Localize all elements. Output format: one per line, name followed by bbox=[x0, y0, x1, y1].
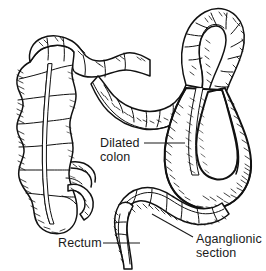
rectum-label-line1: Rectum bbox=[58, 236, 102, 250]
colon-diagram-svg: Dilated colon Rectum Aganglionic section bbox=[0, 0, 266, 271]
aganglionic-label-line1: Aganglionic bbox=[196, 232, 262, 246]
dilated-colon-label-line1: Dilated bbox=[100, 136, 140, 150]
colon-illustration-figure: Dilated colon Rectum Aganglionic section bbox=[0, 0, 266, 271]
label-rectum: Rectum bbox=[58, 236, 102, 250]
aganglionic-label-line2: section bbox=[196, 246, 236, 260]
dilated-colon-label-line2: colon bbox=[100, 150, 130, 164]
